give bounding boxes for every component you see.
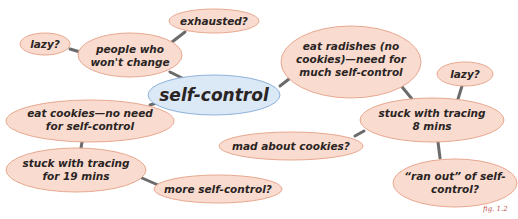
node-eat-radishes: eat radishes (no cookies)—need for much … xyxy=(281,26,421,98)
node-eat-cookies: eat cookies—no need for self-control xyxy=(6,100,174,142)
node-label-line-2: cookies)—need for xyxy=(296,53,407,65)
node-label-line-1: eat radishes (no xyxy=(303,40,400,52)
node-people-who-wont-change: people who won't change xyxy=(78,33,182,77)
node-ran-out: “ran out” of self- control? xyxy=(393,159,517,207)
node-label-line-1: eat cookies—no need xyxy=(27,107,153,119)
node-tracing-8-mins: stuck with tracing 8 mins xyxy=(360,98,504,142)
node-label-line-1: stuck with tracing xyxy=(378,107,486,119)
node-exhausted: exhausted? xyxy=(169,9,259,33)
node-label: more self-control? xyxy=(164,183,272,195)
node-tracing-19-mins: stuck with tracing for 19 mins xyxy=(6,148,146,192)
node-label-line-2: control? xyxy=(431,183,479,195)
node-label-line-2: for 19 mins xyxy=(42,170,109,182)
node-label-line-1: “ran out” of self- xyxy=(404,170,505,182)
edge-tracing8-ranout xyxy=(438,142,440,158)
edge-cookies-tracing19 xyxy=(81,142,82,148)
node-self-control: self-control xyxy=(148,75,280,115)
node-label-line-3: much self-control xyxy=(299,66,403,78)
node-label: lazy? xyxy=(30,38,60,50)
edge-tracing19-more xyxy=(142,178,158,185)
node-label: mad about cookies? xyxy=(232,140,350,152)
node-label-line-2: 8 mins xyxy=(412,120,451,132)
node-label-line-1: people who xyxy=(95,43,164,55)
node-label: lazy? xyxy=(450,68,480,80)
node-label: self-control xyxy=(159,85,270,105)
node-label: exhausted? xyxy=(180,15,248,27)
node-label-line-1: stuck with tracing xyxy=(22,157,130,169)
node-lazy-right: lazy? xyxy=(437,62,493,86)
node-more-self-control: more self-control? xyxy=(154,175,282,203)
node-mad-about-cookies: mad about cookies? xyxy=(219,132,363,160)
node-label-line-2: won't change xyxy=(90,56,169,68)
figure-caption: fig. 1.2 xyxy=(482,205,508,213)
edge-tracing8-lazy xyxy=(458,86,462,99)
mind-map-diagram: self-control people who won't change exh… xyxy=(0,0,518,219)
edge-tracing8-mad xyxy=(355,131,364,136)
node-label-line-2: for self-control xyxy=(46,120,135,132)
node-lazy-left: lazy? xyxy=(20,33,70,55)
edge-people-exhausted xyxy=(172,32,185,42)
